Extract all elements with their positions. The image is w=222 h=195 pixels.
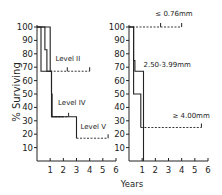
x-tick-label: 5 — [192, 165, 197, 175]
y-tick-label: 70 — [22, 62, 33, 72]
series-label: Level IV — [58, 99, 86, 107]
y-tick-label: 50 — [114, 89, 125, 99]
y-tick-label: 100 — [17, 22, 33, 32]
y-tick-label: 90 — [114, 35, 125, 45]
x-tick-label: 4 — [87, 165, 92, 175]
x-tick-label: 1 — [139, 165, 144, 175]
y-tick-label: 10 — [22, 143, 33, 153]
series-label: ≥ 4.00mm — [172, 112, 209, 120]
x-tick-label: 6 — [113, 165, 118, 175]
x-tick-label: 3 — [74, 165, 79, 175]
survival-curve — [129, 27, 141, 128]
y-axis-label: % Surviving — [11, 62, 22, 122]
y-tick-label: 80 — [114, 49, 125, 59]
series-label: 2.50-3.99mm — [143, 61, 191, 69]
y-tick-label: 100 — [109, 22, 125, 32]
x-tick-label: 2 — [61, 165, 66, 175]
y-tick-label: 40 — [22, 102, 33, 112]
series-label: Level II — [55, 55, 80, 63]
x-tick-label: 6 — [205, 165, 210, 175]
survival-curve — [37, 27, 50, 71]
right-panel-chart: 102030405060708090100123456≤ 0.76mm2.50-… — [109, 10, 211, 175]
y-tick-label: 60 — [114, 76, 125, 86]
series-label: ≤ 0.76mm — [155, 10, 192, 18]
y-tick-label: 30 — [114, 116, 125, 126]
y-tick-label: 70 — [114, 62, 125, 72]
x-tick-label: 4 — [179, 165, 184, 175]
survival-charts: 102030405060708090100123456Level IILevel… — [0, 0, 222, 195]
y-tick-label: 20 — [22, 129, 33, 139]
y-tick-label: 30 — [22, 116, 33, 126]
y-tick-label: 40 — [114, 102, 125, 112]
left-panel-chart: 102030405060708090100123456Level IILevel… — [17, 22, 119, 175]
y-tick-label: 10 — [114, 143, 125, 153]
x-tick-label: 1 — [47, 165, 52, 175]
y-tick-label: 20 — [114, 129, 125, 139]
x-tick-label: 2 — [153, 165, 158, 175]
y-tick-label: 80 — [22, 49, 33, 59]
x-tick-label: 3 — [166, 165, 171, 175]
y-tick-label: 90 — [22, 35, 33, 45]
y-tick-label: 50 — [22, 89, 33, 99]
series-label: Level V — [80, 123, 106, 131]
x-tick-label: 5 — [100, 165, 105, 175]
x-axis-label: Years — [120, 179, 144, 189]
survival-curve — [37, 27, 77, 138]
y-tick-label: 60 — [22, 76, 33, 86]
